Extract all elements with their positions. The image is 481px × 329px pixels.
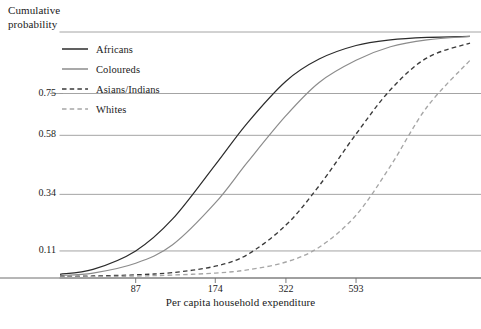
legend-label: Asians/Indians (96, 84, 160, 95)
legend-item: Asians/Indians (62, 79, 160, 99)
x-tick-label: 322 (266, 283, 306, 294)
x-tick-label: 593 (336, 283, 376, 294)
x-axis-title: Per capita household expenditure (0, 296, 481, 308)
legend-label: Coloureds (96, 64, 140, 75)
x-tick-label: 87 (116, 283, 156, 294)
y-tick-label: 0.58 (22, 128, 56, 139)
legend-label: Africans (96, 44, 133, 55)
y-tick-label: 0.11 (22, 244, 56, 255)
y-tick-label: 0.34 (22, 187, 56, 198)
legend-label: Whites (96, 104, 126, 115)
legend-item: Coloureds (62, 59, 160, 79)
legend-item: Whites (62, 99, 160, 119)
x-tick-label: 174 (195, 283, 235, 294)
chart-root: Cumulative probability 0.750.580.340.11 … (0, 0, 481, 329)
chart-legend: AfricansColouredsAsians/IndiansWhites (62, 39, 160, 119)
legend-item: Africans (62, 39, 160, 59)
y-tick-label: 0.75 (22, 87, 56, 98)
x-tick-marks (136, 278, 356, 283)
